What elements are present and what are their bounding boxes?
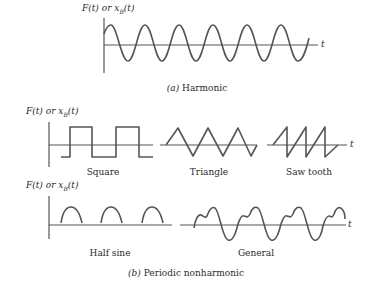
general-periodic-wave — [194, 207, 345, 240]
panel-b-row1-axes — [49, 122, 347, 167]
triangle-wave — [166, 128, 257, 156]
panel-b-row2-axis-label: F(t) or xB(t) — [26, 181, 78, 192]
square-wave — [61, 127, 153, 157]
caption-b-tag: (b) — [128, 268, 141, 278]
row2-t-label: t — [348, 220, 352, 229]
sawtooth-label: Saw tooth — [286, 168, 332, 177]
caption-b: (b) Periodic nonharmonic — [128, 269, 244, 278]
axis-label-text: F(t) or x — [26, 180, 63, 190]
panel-b-row1-axis-label: F(t) or xB(t) — [26, 107, 78, 118]
caption-a-tag: (a) — [167, 83, 179, 93]
caption-a-text: Harmonic — [182, 83, 227, 93]
row1-t-label: t — [350, 140, 354, 149]
sawtooth-wave — [273, 127, 338, 157]
axis-label-tail: (t) — [68, 180, 79, 190]
axis-label-tail: (t) — [68, 106, 79, 116]
half-sine-label: Half sine — [90, 249, 131, 258]
caption-b-text: Periodic nonharmonic — [144, 268, 244, 278]
general-label: General — [238, 249, 274, 258]
triangle-label: Triangle — [190, 168, 228, 177]
harmonic-sine-wave — [104, 25, 309, 61]
half-sine-wave — [61, 207, 163, 223]
axis-label-text: F(t) or x — [26, 106, 63, 116]
waveform-diagram — [0, 0, 371, 291]
caption-a: (a) Harmonic — [167, 84, 227, 93]
square-label: Square — [87, 168, 120, 177]
